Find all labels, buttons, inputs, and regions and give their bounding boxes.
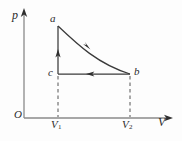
tick-label-v1-subscript: 1: [58, 123, 62, 131]
tick-label-v2: V2: [122, 119, 133, 131]
origin-label: O: [14, 109, 22, 120]
tick-label-v2-base: V: [122, 118, 129, 130]
tick-label-v2-subscript: 2: [129, 123, 133, 131]
process-arrow-a-to-b: [83, 42, 90, 50]
pv-diagram-figure: p V O a b c V1 V2: [0, 0, 182, 141]
tick-label-v1: V1: [51, 119, 62, 131]
p-axis-label: p: [12, 9, 18, 21]
v-axis-label: V: [158, 116, 165, 128]
point-label-a: a: [50, 13, 56, 24]
point-label-c: c: [48, 67, 53, 78]
tick-label-v1-base: V: [51, 118, 58, 130]
process-curve-a-to-b: [58, 26, 130, 74]
point-label-b: b: [134, 66, 140, 77]
diagram-canvas: [0, 0, 182, 141]
